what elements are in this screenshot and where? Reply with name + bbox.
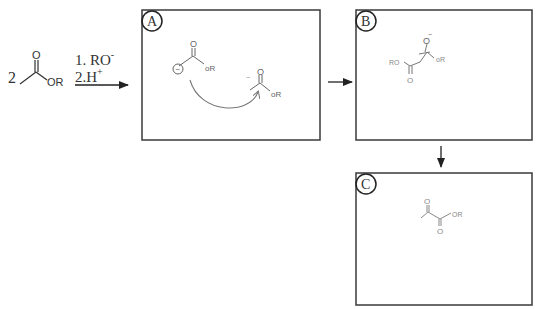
condition-step-1: 1. RO- — [75, 49, 114, 68]
panel-c-label: C — [361, 177, 370, 192]
ester-bond — [36, 72, 47, 80]
panel-b-frame — [356, 10, 532, 140]
svg-text:oR: oR — [205, 64, 215, 73]
svg-text:O: O — [257, 67, 264, 77]
ester-group: OR — [47, 76, 64, 88]
panel-a-frame — [142, 10, 320, 140]
svg-text:O: O — [424, 197, 430, 206]
reaction-conditions: 1. RO- 2.H+ — [75, 49, 128, 85]
condition-step-2: 2.H+ — [75, 66, 103, 85]
svg-text:−: − — [176, 65, 181, 74]
svg-text:RO: RO — [389, 59, 400, 66]
svg-text:−: − — [428, 31, 432, 38]
svg-text:O: O — [190, 39, 197, 49]
panel-b: B O − RO oR O — [356, 10, 532, 140]
svg-text:oR: oR — [271, 90, 281, 99]
coefficient: 2 — [8, 69, 16, 86]
svg-text:oR: oR — [436, 56, 445, 63]
panel-c: C O O OR — [356, 173, 532, 305]
reaction-diagram: 2 O OR 1. RO- 2.H+ A − O oR — [0, 0, 539, 309]
panel-b-label: B — [361, 14, 370, 29]
svg-text:O: O — [407, 76, 413, 85]
reactant-skeleton — [20, 60, 47, 84]
panel-c-frame — [356, 173, 532, 305]
svg-text:OR: OR — [452, 211, 463, 218]
svg-text:O: O — [437, 227, 443, 236]
reactant: 2 O OR — [8, 49, 64, 88]
methyl-bond — [20, 72, 36, 84]
panel-a: A − O oR O − oR — [142, 10, 320, 140]
carbonyl-oxygen: O — [32, 49, 41, 61]
svg-text:−: − — [246, 74, 250, 81]
panel-a-label: A — [147, 14, 158, 29]
